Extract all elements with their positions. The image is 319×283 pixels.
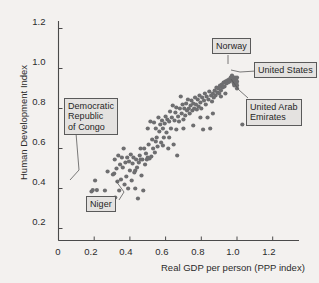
data-point [208, 126, 212, 130]
y-tick-label-1.2: 1.2 [26, 16, 52, 27]
data-point [124, 174, 128, 178]
data-point [180, 111, 184, 115]
data-point [210, 99, 214, 103]
data-point [144, 151, 148, 155]
data-point [148, 119, 152, 123]
data-point [141, 188, 145, 192]
data-point [128, 168, 132, 172]
x-tick-label-0.6: 0.6 [149, 246, 175, 257]
annotation-norway[interactable]: Norway [212, 38, 251, 54]
data-point [127, 159, 131, 163]
data-point [174, 105, 178, 109]
data-point [114, 166, 118, 170]
data-point [207, 89, 211, 93]
data-point [116, 153, 120, 157]
data-point [175, 153, 179, 157]
data-point [204, 102, 208, 106]
data-point [153, 150, 157, 154]
data-point [206, 97, 210, 101]
data-point [183, 113, 187, 117]
y-tick-label-1.0: 1.0 [26, 56, 52, 67]
data-point [95, 188, 99, 192]
data-point [217, 85, 221, 89]
data-point [158, 122, 162, 126]
data-point [149, 154, 153, 158]
data-point [178, 106, 182, 110]
data-point [191, 123, 195, 127]
data-point [180, 102, 184, 106]
data-point [112, 171, 116, 175]
data-point [154, 139, 158, 143]
data-point [172, 118, 176, 122]
data-point [176, 114, 180, 118]
data-point [184, 101, 188, 105]
data-point [146, 126, 150, 130]
data-point [125, 155, 129, 159]
data-point [147, 142, 151, 146]
y-tick-label-0.4: 0.4 [26, 176, 52, 187]
leader-line-us [231, 70, 256, 72]
data-points [89, 73, 244, 204]
data-point [133, 186, 137, 190]
data-point [130, 161, 134, 165]
data-point [235, 79, 239, 83]
data-point [201, 127, 205, 131]
data-point [120, 155, 124, 159]
data-point [162, 135, 166, 139]
data-point [161, 143, 165, 147]
y-tick-label-0.8: 0.8 [26, 96, 52, 107]
data-point [167, 135, 171, 139]
data-point [240, 122, 244, 126]
data-point [150, 137, 154, 141]
x-tick-label-0.2: 0.2 [78, 246, 104, 257]
data-point [155, 144, 159, 148]
leader-line-congo [70, 133, 79, 180]
data-point [223, 91, 227, 95]
data-point [171, 103, 175, 107]
data-point [122, 146, 126, 150]
data-point [186, 97, 190, 101]
figure-container: 1.2 1.0 0.8 0.6 0.4 0.2 0 0.2 0.4 0.6 0.… [0, 0, 319, 283]
data-point [173, 110, 177, 114]
data-point [167, 119, 171, 123]
data-point [198, 100, 202, 104]
data-point [152, 120, 156, 124]
data-point [181, 117, 185, 121]
data-point [157, 129, 161, 133]
data-point [126, 186, 130, 190]
data-point [155, 135, 159, 139]
data-point [235, 75, 239, 79]
annotation-democratic-republic-of-congo[interactable]: Democratic Republic of Congo [64, 98, 118, 135]
data-point [123, 160, 127, 164]
data-point [139, 146, 143, 150]
data-point [136, 196, 140, 200]
data-point [163, 121, 167, 125]
data-point [130, 178, 134, 182]
data-point [156, 115, 160, 119]
data-point [119, 177, 123, 181]
data-point [174, 127, 178, 131]
data-point [202, 98, 206, 102]
annotation-niger[interactable]: Niger [86, 196, 116, 212]
data-point [139, 173, 143, 177]
data-point [142, 146, 146, 150]
data-point [117, 188, 121, 192]
data-point [133, 168, 137, 172]
data-point [122, 182, 126, 186]
data-point [219, 94, 223, 98]
data-point [161, 126, 165, 130]
data-point [198, 115, 202, 119]
data-point [138, 153, 142, 157]
data-point [143, 162, 147, 166]
y-axis-title: Human Development Index [18, 65, 29, 180]
x-tick-label-1.2: 1.2 [256, 246, 282, 257]
x-tick-label-1.0: 1.0 [220, 246, 246, 257]
y-tick-label-0.2: 0.2 [26, 216, 52, 227]
data-point [168, 109, 172, 113]
data-point [211, 111, 215, 115]
x-tick-label-0.4: 0.4 [113, 246, 139, 257]
annotation-united-arab-emirates[interactable]: United Arab Emirates [246, 99, 302, 126]
data-point [181, 126, 185, 130]
data-point [164, 130, 168, 134]
annotation-united-states[interactable]: United States [254, 62, 317, 78]
